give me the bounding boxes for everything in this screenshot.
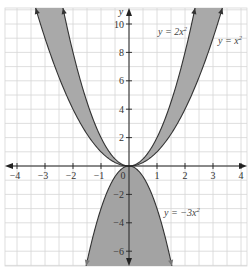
x-tick-label: −1 (94, 170, 105, 181)
x-tick-label: 3 (211, 170, 216, 181)
x-axis-right-arrow-icon (239, 163, 247, 169)
label-y-neg3x-squared-text: y = −3x (163, 207, 197, 218)
x-tick-label: −4 (10, 170, 21, 181)
y-tick-label: −2 (113, 189, 124, 200)
label-y-x-squared-text: y = x (217, 35, 239, 46)
x-tick-label: 1 (155, 170, 160, 181)
label-y-2x-squared-superscript: 2 (184, 25, 188, 32)
y-axis-label: y (118, 6, 124, 17)
x-tick-label: −2 (66, 170, 77, 181)
label-y-2x-squared-text: y = 2x (157, 26, 184, 37)
x-tick-label: −3 (38, 170, 49, 181)
label-y-x-squared: y = x2 (217, 34, 243, 46)
y-tick-label: 2 (119, 132, 124, 143)
label-y-neg3x-squared: y = −3x2 (163, 206, 200, 218)
chart-svg: −4−3−2−11234108642−2−4−60y y = 2x2y = x2… (0, 0, 252, 274)
y-tick-label: 4 (119, 104, 124, 115)
x-tick-label: 4 (239, 170, 244, 181)
y-tick-label: −4 (113, 217, 124, 228)
label-y-neg3x-squared-superscript: 2 (196, 206, 200, 213)
y-tick-label: 8 (119, 47, 124, 58)
x-axis-left-arrow-icon (5, 163, 13, 169)
x-tick-label: 2 (183, 170, 188, 181)
label-y-2x-squared: y = 2x2 (157, 25, 188, 37)
y-tick-label: 6 (119, 75, 124, 86)
y-axis-top-arrow-icon (126, 8, 132, 16)
y-tick-label: −6 (113, 246, 124, 257)
y-tick-label: 10 (114, 19, 124, 30)
parabola-chart: −4−3−2−11234108642−2−4−60y y = 2x2y = x2… (0, 0, 252, 274)
origin-label: 0 (121, 170, 126, 181)
label-y-x-squared-superscript: 2 (239, 34, 243, 41)
